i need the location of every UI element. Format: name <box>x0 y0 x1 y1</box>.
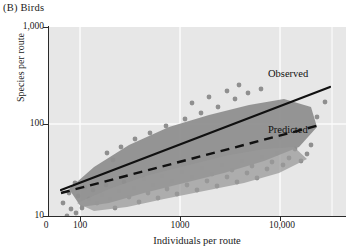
scatter-points <box>49 27 346 216</box>
y-tick-label-10: 10 <box>10 210 44 220</box>
x-tick-label-100: 100 <box>73 220 87 230</box>
series-label-observed: Observed <box>268 68 308 79</box>
y-tick-label-1000: 1,000 <box>10 21 44 31</box>
x-tick-label-1000: 1000 <box>171 220 190 230</box>
y-tick-label-100: 100 <box>10 118 44 128</box>
y-axis-line <box>48 26 49 217</box>
x-tick-label-10000: 10,000 <box>269 220 295 230</box>
x-axis-line <box>48 216 346 217</box>
plot-area <box>49 27 346 216</box>
figure-panel-b-birds: (B) Birds Species per route Individuals … <box>0 0 346 252</box>
scatter-plot-svg <box>49 27 346 216</box>
x-axis-title: Individuals per route <box>48 235 346 246</box>
series-label-predicted: Predicted <box>268 124 308 135</box>
x-tick-label-0: 0 <box>44 220 49 230</box>
